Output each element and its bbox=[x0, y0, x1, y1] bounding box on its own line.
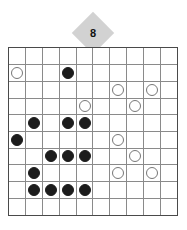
grid-cell-white-stone[interactable] bbox=[110, 131, 127, 148]
grid-cell-empty[interactable] bbox=[59, 48, 76, 65]
grid-cell-empty[interactable] bbox=[42, 65, 59, 82]
grid-cell-empty[interactable] bbox=[93, 65, 110, 82]
grid-cell-empty[interactable] bbox=[42, 115, 59, 132]
grid-cell-black-stone[interactable] bbox=[9, 131, 25, 148]
grid-cell-empty[interactable] bbox=[42, 198, 59, 215]
grid-cell-white-stone[interactable] bbox=[110, 165, 127, 182]
grid-cell-empty[interactable] bbox=[25, 81, 42, 98]
grid-cell-empty[interactable] bbox=[110, 65, 127, 82]
grid-cell-black-stone[interactable] bbox=[25, 165, 42, 182]
grid-cell-empty[interactable] bbox=[127, 115, 144, 132]
grid-cell-empty[interactable] bbox=[110, 48, 127, 65]
grid-cell-empty[interactable] bbox=[144, 65, 161, 82]
grid-cell-black-stone[interactable] bbox=[76, 148, 93, 165]
grid-cell-empty[interactable] bbox=[110, 98, 127, 115]
grid-cell-empty[interactable] bbox=[161, 65, 177, 82]
grid-cell-white-stone[interactable] bbox=[127, 98, 144, 115]
grid-cell-empty[interactable] bbox=[76, 165, 93, 182]
grid-cell-empty[interactable] bbox=[59, 98, 76, 115]
grid-cell-white-stone[interactable] bbox=[127, 148, 144, 165]
grid-cell-empty[interactable] bbox=[9, 48, 25, 65]
puzzle-grid[interactable] bbox=[8, 47, 178, 216]
grid-cell-empty[interactable] bbox=[144, 198, 161, 215]
grid-cell-empty[interactable] bbox=[144, 131, 161, 148]
grid-cell-empty[interactable] bbox=[161, 81, 177, 98]
grid-cell-empty[interactable] bbox=[59, 198, 76, 215]
grid-cell-black-stone[interactable] bbox=[59, 182, 76, 199]
grid-cell-empty[interactable] bbox=[42, 48, 59, 65]
grid-cell-empty[interactable] bbox=[127, 198, 144, 215]
grid-cell-empty[interactable] bbox=[9, 198, 25, 215]
grid-cell-white-stone[interactable] bbox=[144, 81, 161, 98]
grid-cell-empty[interactable] bbox=[93, 131, 110, 148]
grid-cell-empty[interactable] bbox=[93, 182, 110, 199]
grid-cell-empty[interactable] bbox=[161, 98, 177, 115]
grid-cell-empty[interactable] bbox=[144, 48, 161, 65]
grid-cell-empty[interactable] bbox=[127, 65, 144, 82]
grid-cell-empty[interactable] bbox=[25, 148, 42, 165]
grid-cell-empty[interactable] bbox=[42, 81, 59, 98]
grid-cell-white-stone[interactable] bbox=[110, 81, 127, 98]
grid-cell-empty[interactable] bbox=[161, 131, 177, 148]
grid-cell-empty[interactable] bbox=[9, 148, 25, 165]
grid-cell-white-stone[interactable] bbox=[144, 165, 161, 182]
grid-cell-empty[interactable] bbox=[59, 131, 76, 148]
grid-cell-empty[interactable] bbox=[127, 81, 144, 98]
grid-cell-empty[interactable] bbox=[93, 81, 110, 98]
grid-cell-empty[interactable] bbox=[93, 148, 110, 165]
grid-cell-empty[interactable] bbox=[93, 115, 110, 132]
grid-cell-empty[interactable] bbox=[127, 48, 144, 65]
grid-cell-empty[interactable] bbox=[25, 98, 42, 115]
grid-cell-empty[interactable] bbox=[144, 148, 161, 165]
grid-cell-empty[interactable] bbox=[110, 115, 127, 132]
grid-cell-empty[interactable] bbox=[93, 165, 110, 182]
grid-cell-empty[interactable] bbox=[59, 81, 76, 98]
grid-cell-black-stone[interactable] bbox=[59, 115, 76, 132]
grid-cell-empty[interactable] bbox=[25, 65, 42, 82]
grid-cell-empty[interactable] bbox=[9, 81, 25, 98]
grid-cell-empty[interactable] bbox=[144, 98, 161, 115]
grid-cell-white-stone[interactable] bbox=[76, 98, 93, 115]
grid-cell-empty[interactable] bbox=[161, 182, 177, 199]
grid-cell-black-stone[interactable] bbox=[42, 182, 59, 199]
grid-cell-empty[interactable] bbox=[9, 98, 25, 115]
grid-cell-empty[interactable] bbox=[42, 98, 59, 115]
grid-cell-empty[interactable] bbox=[110, 182, 127, 199]
grid-cell-empty[interactable] bbox=[127, 131, 144, 148]
grid-cell-white-stone[interactable] bbox=[9, 65, 25, 82]
grid-cell-empty[interactable] bbox=[161, 148, 177, 165]
grid-cell-empty[interactable] bbox=[42, 165, 59, 182]
grid-cell-black-stone[interactable] bbox=[25, 115, 42, 132]
grid-cell-empty[interactable] bbox=[93, 198, 110, 215]
grid-cell-empty[interactable] bbox=[76, 81, 93, 98]
grid-cell-empty[interactable] bbox=[9, 182, 25, 199]
grid-cell-empty[interactable] bbox=[110, 198, 127, 215]
grid-cell-black-stone[interactable] bbox=[42, 148, 59, 165]
grid-cell-empty[interactable] bbox=[161, 198, 177, 215]
grid-cell-empty[interactable] bbox=[76, 48, 93, 65]
grid-cell-empty[interactable] bbox=[42, 131, 59, 148]
grid-cell-empty[interactable] bbox=[144, 182, 161, 199]
grid-cell-black-stone[interactable] bbox=[25, 182, 42, 199]
grid-cell-empty[interactable] bbox=[93, 98, 110, 115]
grid-cell-empty[interactable] bbox=[76, 65, 93, 82]
grid-cell-black-stone[interactable] bbox=[59, 65, 76, 82]
grid-cell-empty[interactable] bbox=[25, 131, 42, 148]
grid-cell-empty[interactable] bbox=[93, 48, 110, 65]
grid-cell-empty[interactable] bbox=[161, 115, 177, 132]
grid-cell-empty[interactable] bbox=[9, 165, 25, 182]
grid-cell-black-stone[interactable] bbox=[76, 115, 93, 132]
grid-cell-empty[interactable] bbox=[127, 165, 144, 182]
grid-cell-empty[interactable] bbox=[161, 48, 177, 65]
grid-cell-empty[interactable] bbox=[76, 131, 93, 148]
grid-cell-empty[interactable] bbox=[59, 165, 76, 182]
grid-cell-empty[interactable] bbox=[76, 198, 93, 215]
grid-cell-empty[interactable] bbox=[144, 115, 161, 132]
grid-cell-empty[interactable] bbox=[110, 148, 127, 165]
grid-cell-empty[interactable] bbox=[25, 48, 42, 65]
grid-cell-empty[interactable] bbox=[25, 198, 42, 215]
grid-cell-empty[interactable] bbox=[127, 182, 144, 199]
grid-cell-black-stone[interactable] bbox=[76, 182, 93, 199]
grid-cell-empty[interactable] bbox=[9, 115, 25, 132]
grid-cell-empty[interactable] bbox=[161, 165, 177, 182]
